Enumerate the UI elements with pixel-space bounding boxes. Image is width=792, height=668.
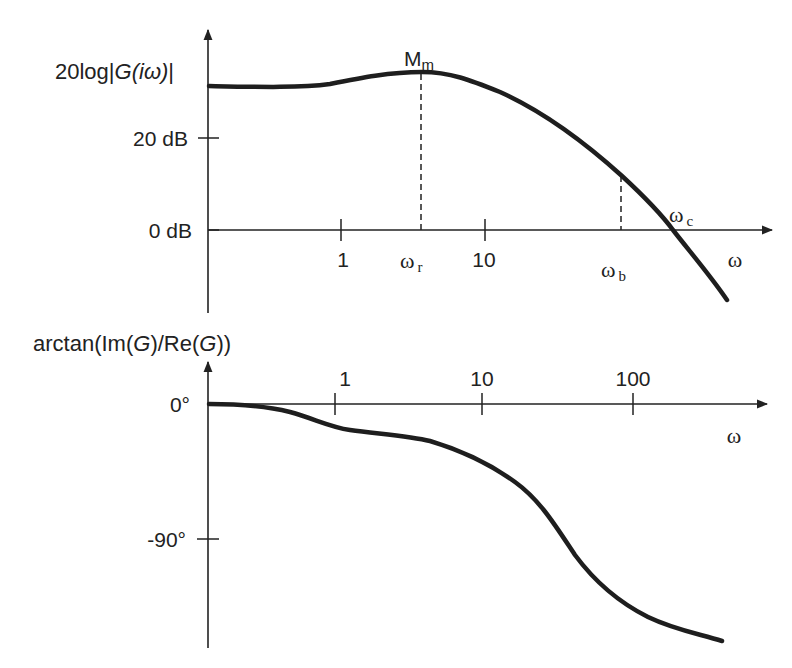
bode-plot-figure: 20log|G(iω)| 20 dB 0 dB 1 10 ω Mm ωr ωb	[0, 0, 792, 668]
magnitude-plot: 20log|G(iω)| 20 dB 0 dB 1 10 ω Mm ωr ωb	[55, 30, 772, 313]
phase-curve	[209, 404, 722, 641]
phase-tick-label-x-10: 10	[470, 367, 493, 390]
tick-label-x-1: 1	[337, 248, 349, 271]
magnitude-x-axis-label: ω	[728, 247, 742, 272]
resonant-frequency-label: ωr	[400, 248, 422, 275]
phase-x-axis-label: ω	[727, 423, 741, 448]
tick-label-minus90deg: -90°	[147, 528, 186, 551]
bandwidth-frequency-label: ωb	[601, 257, 626, 284]
phase-tick-label-x-1: 1	[339, 367, 351, 390]
phase-plot: arctan(Im(G)/Re(G)) 0° -90° 1 10 100 ω	[33, 331, 767, 648]
tick-label-20db: 20 dB	[133, 127, 188, 150]
magnitude-y-axis-label: 20log|G(iω)|	[55, 59, 174, 84]
tick-label-0db: 0 dB	[149, 219, 192, 242]
magnitude-curve	[209, 72, 727, 300]
phase-y-axis-label: arctan(Im(G)/Re(G))	[33, 331, 231, 356]
tick-label-x-10: 10	[472, 248, 495, 271]
tick-label-0deg: 0°	[170, 393, 190, 416]
peak-magnitude-label: Mm	[404, 47, 434, 73]
crossover-frequency-label: ωc	[669, 202, 693, 229]
phase-tick-label-x-100: 100	[615, 367, 650, 390]
